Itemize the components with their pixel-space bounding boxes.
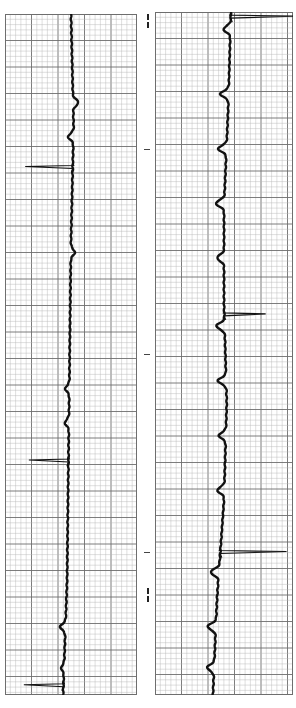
ecg-trace <box>60 14 78 695</box>
event-dash-marker <box>147 588 149 594</box>
ecg-strip-left-svg <box>5 14 137 695</box>
gap-markers <box>140 0 154 708</box>
event-dash-marker <box>147 22 149 28</box>
grid <box>5 14 137 695</box>
timing-tick-marker <box>144 354 150 355</box>
ecg-trace <box>207 12 231 695</box>
event-dash-marker <box>147 596 149 602</box>
ecg-strip-left <box>5 14 137 695</box>
ecg-strip-right <box>155 12 293 695</box>
strip-border <box>6 15 137 695</box>
timing-tick-marker <box>144 149 150 150</box>
ecg-strip-right-svg <box>155 12 293 695</box>
timing-tick-marker <box>144 552 150 553</box>
event-dash-marker <box>147 14 149 20</box>
qrs-complex <box>223 310 265 320</box>
